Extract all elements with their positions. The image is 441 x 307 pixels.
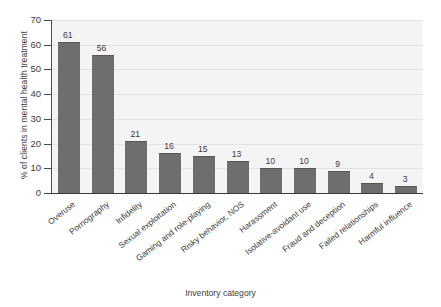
- y-axis-tick-label: 60: [0, 40, 41, 50]
- y-axis-tick: [44, 193, 51, 194]
- bar[interactable]: [328, 171, 350, 193]
- y-axis-tick: [44, 45, 51, 46]
- x-axis-title: Inventory category: [0, 288, 441, 298]
- bar[interactable]: [193, 156, 215, 193]
- y-axis-tick-label: 10: [0, 163, 41, 173]
- x-axis-category-label: Infidelity: [21, 200, 144, 299]
- bar[interactable]: [395, 186, 417, 193]
- y-axis-tick: [44, 144, 51, 145]
- y-axis-tick-label: 40: [0, 89, 41, 99]
- y-axis-tick: [44, 20, 51, 21]
- bar[interactable]: [361, 183, 383, 193]
- bar[interactable]: [294, 168, 316, 193]
- y-axis-tick: [44, 119, 51, 120]
- bar[interactable]: [260, 168, 282, 193]
- bar[interactable]: [159, 153, 181, 193]
- y-axis-tick-label: 0: [0, 188, 41, 198]
- x-axis-category-label: Harassment: [155, 200, 278, 299]
- y-axis-tick-label: 50: [0, 64, 41, 74]
- bar-value-label: 61: [48, 31, 88, 40]
- y-axis-tick-label: 30: [0, 114, 41, 124]
- bar-value-label: 21: [115, 130, 155, 139]
- bar-value-label: 3: [385, 175, 425, 184]
- bar[interactable]: [58, 42, 80, 193]
- bar-value-label: 9: [318, 160, 358, 169]
- bar-chart-figure: % of clients in mental health treatment …: [0, 0, 441, 307]
- bar[interactable]: [92, 55, 114, 193]
- y-axis-tick-label: 70: [0, 15, 41, 25]
- bar[interactable]: [227, 161, 249, 193]
- bar[interactable]: [125, 141, 147, 193]
- bar-value-label: 56: [82, 44, 122, 53]
- y-axis-tick: [44, 69, 51, 70]
- y-axis-tick: [44, 94, 51, 95]
- gridline: [52, 20, 423, 21]
- y-axis-tick: [44, 168, 51, 169]
- y-axis-tick-label: 20: [0, 139, 41, 149]
- x-axis-category-label: Failed relationships: [257, 200, 380, 299]
